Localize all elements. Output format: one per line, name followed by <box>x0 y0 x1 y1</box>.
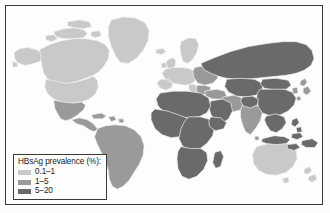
legend-item-high: 5–20 <box>18 187 101 196</box>
map-frame: HBsAg prevalence (%): 0.1–1 1–5 5–20 <box>5 5 323 205</box>
legend-swatch-high-icon <box>18 189 31 194</box>
legend-item-low: 0.1–1 <box>18 168 101 177</box>
legend-label-low: 0.1–1 <box>35 168 55 176</box>
region-mongolia <box>260 78 291 90</box>
legend-swatch-low-icon <box>18 170 31 175</box>
legend-label-intermediate: 1–5 <box>35 178 48 186</box>
figure-container: HBsAg prevalence (%): 0.1–1 1–5 5–20 <box>0 0 330 213</box>
legend-swatch-intermediate-icon <box>18 180 31 185</box>
legend-item-intermediate: 1–5 <box>18 178 101 187</box>
map-legend: HBsAg prevalence (%): 0.1–1 1–5 5–20 <box>13 154 107 200</box>
legend-title: HBsAg prevalence (%): <box>18 158 101 166</box>
region-sri-lanka <box>254 136 259 141</box>
legend-label-high: 5–20 <box>35 187 53 195</box>
